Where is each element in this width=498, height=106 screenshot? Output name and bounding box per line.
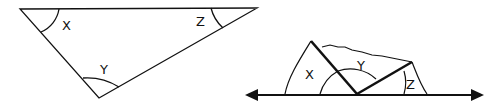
angle-arc-z — [211, 8, 223, 28]
right-label-z: Z — [406, 77, 415, 92]
right-label-x: X — [305, 67, 314, 82]
left-arrowhead — [245, 89, 258, 101]
piece-y — [322, 45, 412, 62]
left-label-y: Y — [99, 62, 108, 77]
left-label-x: X — [62, 18, 71, 33]
left-triangle — [20, 8, 257, 98]
right-arrowhead — [471, 89, 484, 101]
angle-sum-diagram: X Z Y X Y Z — [0, 0, 498, 106]
left-label-z: Z — [196, 14, 205, 29]
right-label-y: Y — [356, 58, 365, 73]
arc-x — [320, 71, 338, 94]
angle-arc-x — [41, 9, 59, 32]
